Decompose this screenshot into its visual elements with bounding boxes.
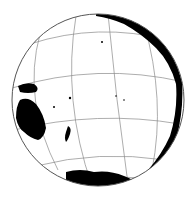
island [69, 97, 71, 99]
island [123, 99, 125, 101]
globe-svg [0, 0, 195, 199]
new-guinea [18, 83, 38, 93]
globe-map: Orthographic globe centered on the Pacif… [0, 0, 195, 199]
island [115, 95, 117, 97]
island [53, 106, 55, 108]
island [101, 41, 103, 43]
